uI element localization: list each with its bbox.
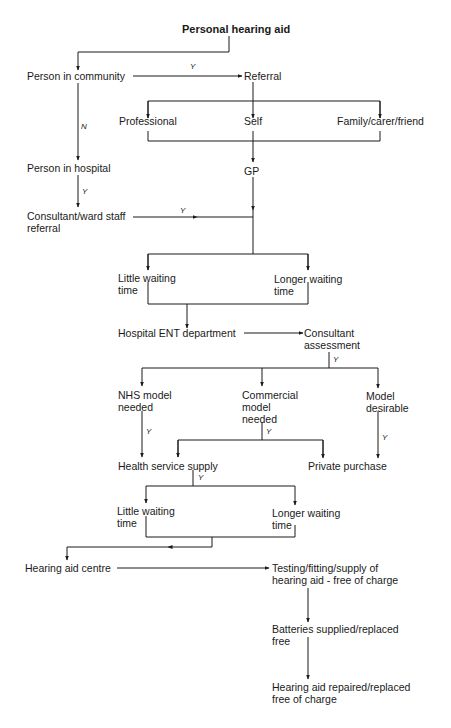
node-family-carer-friend: Family/carer/friend xyxy=(337,115,424,127)
node-line: Hearing aid repaired/replaced xyxy=(272,681,410,693)
edge-label-yes: Y xyxy=(198,473,203,482)
node-line: needed xyxy=(242,413,298,425)
edge-label-yes: Y xyxy=(146,427,151,436)
node-line: referral xyxy=(27,222,125,234)
node-person-in-community: Person in community xyxy=(27,70,125,82)
node-longer-waiting-time: Longer waiting time xyxy=(274,273,342,297)
node-hearing-aid-repaired: Hearing aid repaired/replaced free of ch… xyxy=(272,681,410,705)
edge-label-yes: Y xyxy=(190,62,195,71)
node-line: Little waiting xyxy=(118,272,176,284)
node-hearing-aid-centre: Hearing aid centre xyxy=(25,562,111,574)
node-line: desirable xyxy=(366,402,409,414)
node-line: Longer waiting xyxy=(274,273,342,285)
flowchart-connectors xyxy=(0,0,451,728)
node-line: time xyxy=(272,519,340,531)
node-nhs-model-needed: NHS model needed xyxy=(118,389,172,413)
node-line: Longer waiting xyxy=(272,507,340,519)
node-little-waiting-time-2: Little waiting time xyxy=(117,505,175,529)
node-line: Consultant/ward staff xyxy=(27,210,125,222)
node-line: time xyxy=(274,285,342,297)
edge-label-yes: Y xyxy=(180,206,185,215)
node-line: free of charge xyxy=(272,693,410,705)
node-person-in-hospital: Person in hospital xyxy=(27,162,110,174)
node-line: Batteries supplied/replaced xyxy=(272,623,399,635)
edge-label-no: N xyxy=(81,122,87,131)
node-line: time xyxy=(117,517,175,529)
node-line: Testing/fitting/supply of xyxy=(272,562,398,574)
node-consultant-ward-staff-referral: Consultant/ward staff referral xyxy=(27,210,125,234)
node-line: NHS model xyxy=(118,389,172,401)
node-testing-fitting-supply: Testing/fitting/supply of hearing aid - … xyxy=(272,562,398,586)
node-line: Model xyxy=(366,390,409,402)
edge-label-yes: Y xyxy=(266,427,271,436)
node-line: free xyxy=(272,635,399,647)
node-hospital-ent-department: Hospital ENT department xyxy=(118,327,236,339)
node-line: Little waiting xyxy=(117,505,175,517)
node-little-waiting-time: Little waiting time xyxy=(118,272,176,296)
node-line: assessment xyxy=(304,339,360,351)
node-batteries-supplied: Batteries supplied/replaced free xyxy=(272,623,399,647)
edge-label-yes: Y xyxy=(82,187,87,196)
node-model-desirable: Model desirable xyxy=(366,390,409,414)
node-gp: GP xyxy=(244,165,259,177)
edge-label-yes: Y xyxy=(333,355,338,364)
node-consultant-assessment: Consultant assessment xyxy=(304,327,360,351)
node-referral: Referral xyxy=(244,70,281,82)
node-personal-hearing-aid: Personal hearing aid xyxy=(182,23,290,35)
node-health-service-supply: Health service supply xyxy=(118,460,218,472)
node-line: model xyxy=(242,401,298,413)
node-line: needed xyxy=(118,401,172,413)
node-commercial-model-needed: Commercial model needed xyxy=(242,389,298,425)
node-line: Consultant xyxy=(304,327,360,339)
node-private-purchase: Private purchase xyxy=(308,460,387,472)
node-line: Commercial xyxy=(242,389,298,401)
node-self: Self xyxy=(244,115,262,127)
node-line: time xyxy=(118,284,176,296)
flowchart-canvas: Personal hearing aid Person in community… xyxy=(0,0,451,728)
node-professional: Professional xyxy=(119,115,177,127)
node-longer-waiting-time-2: Longer waiting time xyxy=(272,507,340,531)
node-line: hearing aid - free of charge xyxy=(272,574,398,586)
edge-label-yes: Y xyxy=(382,433,387,442)
